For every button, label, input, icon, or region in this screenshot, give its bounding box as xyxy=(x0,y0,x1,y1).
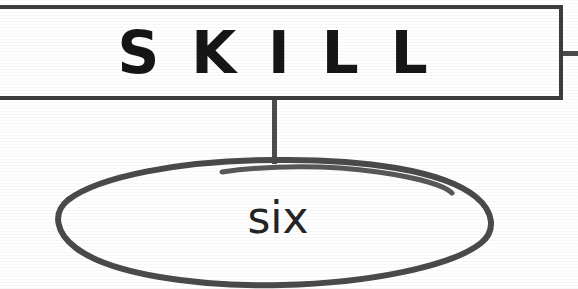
diagram-canvas: SKILL six xyxy=(0,0,578,289)
node-skill-label: SKILL xyxy=(0,9,559,96)
node-skill: SKILL xyxy=(0,5,563,100)
node-six-label: six xyxy=(0,196,556,240)
